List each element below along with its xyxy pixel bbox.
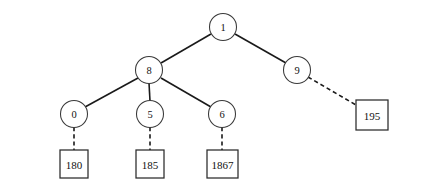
node-label-n0: 0 [71,109,76,120]
tree-diagram-svg: 1890561801851867195 [0,0,445,195]
tree-edge-n9-b195 [308,77,356,105]
node-label-root: 1 [220,22,225,33]
tree-node-box-b180[interactable]: 180 [60,150,88,178]
tree-edge-root-n9 [235,34,286,63]
tree-node-circle-n8[interactable]: 8 [136,57,163,84]
tree-node-box-b185[interactable]: 185 [136,150,164,178]
node-label-n6: 6 [219,109,224,120]
tree-edge-n8-n5 [149,83,150,101]
node-label-b195: 195 [364,110,381,122]
tree-node-circle-root[interactable]: 1 [210,14,237,41]
tree-node-circle-n6[interactable]: 6 [209,101,236,128]
tree-node-circle-n0[interactable]: 0 [61,101,88,128]
node-label-b1867: 1867 [212,159,235,171]
edges-layer [74,34,356,150]
node-label-b185: 185 [142,159,159,171]
tree-node-circle-n5[interactable]: 5 [137,101,164,128]
tree-node-circle-n9[interactable]: 9 [284,57,311,84]
tree-edge-n8-n0 [85,78,138,107]
tree-node-box-b1867[interactable]: 1867 [207,150,238,178]
tree-edge-root-n8 [161,34,211,63]
node-label-n5: 5 [147,109,152,120]
node-label-n9: 9 [294,65,299,76]
tree-node-box-b195[interactable]: 195 [356,100,388,130]
tree-edge-n8-n6 [161,78,211,107]
node-label-n8: 8 [146,65,151,76]
tree-diagram-canvas: 1890561801851867195 [0,0,445,195]
node-label-b180: 180 [66,159,83,171]
